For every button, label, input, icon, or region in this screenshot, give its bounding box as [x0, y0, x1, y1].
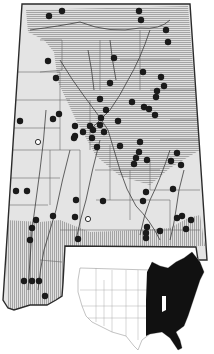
record-dot [21, 278, 27, 284]
record-dot [140, 69, 146, 75]
record-dot [100, 198, 106, 204]
record-dot [136, 8, 142, 14]
record-dot [50, 213, 56, 219]
record-dot [72, 123, 78, 129]
record-dot [56, 111, 62, 117]
record-dot [36, 278, 42, 284]
record-dot [144, 224, 150, 230]
record-dot [133, 155, 139, 161]
record-dot [161, 83, 167, 89]
record-dot [94, 144, 100, 150]
record-dot [33, 217, 39, 223]
record-dot [179, 213, 185, 219]
record-dot [144, 157, 150, 163]
record-dot [17, 118, 23, 124]
record-dot [97, 96, 103, 102]
record-dot [138, 17, 144, 23]
record-dot [89, 135, 95, 141]
open-record-circle [35, 139, 40, 144]
record-dot [90, 127, 96, 133]
record-dot [75, 236, 81, 242]
record-dot [178, 162, 184, 168]
record-dot [131, 161, 137, 167]
record-dot [29, 225, 35, 231]
record-dot [174, 150, 180, 156]
record-dot [157, 228, 163, 234]
record-dot [29, 278, 35, 284]
record-dot [107, 80, 113, 86]
record-dot [146, 106, 152, 112]
record-dot [111, 55, 117, 61]
record-dot [27, 237, 33, 243]
record-dot [45, 58, 51, 64]
record-dot [73, 197, 79, 203]
lake-michigan-cutout [162, 296, 166, 312]
record-dot [188, 217, 194, 223]
map-canvas [0, 0, 214, 354]
record-dot [170, 186, 176, 192]
record-dot [50, 116, 56, 122]
record-dot [129, 99, 135, 105]
record-dot [115, 118, 121, 124]
record-dot [168, 158, 174, 164]
open-record-circle [85, 216, 90, 221]
record-dot [103, 107, 109, 113]
species-range-area [146, 252, 204, 350]
us-range-inset [78, 252, 204, 350]
record-dot [98, 115, 104, 121]
record-dot [97, 122, 103, 128]
record-dot [152, 112, 158, 118]
record-dot [137, 139, 143, 145]
record-dot [140, 198, 146, 204]
record-dot [143, 189, 149, 195]
record-dot [163, 27, 169, 33]
record-dot [46, 13, 52, 19]
record-dot [153, 94, 159, 100]
record-dot [165, 39, 171, 45]
record-dot [13, 188, 19, 194]
record-dot [59, 8, 65, 14]
record-dot [53, 75, 59, 81]
species-distribution-map [0, 0, 214, 354]
record-dot [158, 74, 164, 80]
record-dot [71, 135, 77, 141]
record-dot [24, 188, 30, 194]
record-dot [117, 143, 123, 149]
record-dot [101, 129, 107, 135]
record-dot [143, 235, 149, 241]
record-dot [183, 226, 189, 232]
record-dot [42, 293, 48, 299]
record-dot [136, 149, 142, 155]
record-dot [72, 214, 78, 220]
record-dot [154, 88, 160, 94]
record-dot [80, 129, 86, 135]
